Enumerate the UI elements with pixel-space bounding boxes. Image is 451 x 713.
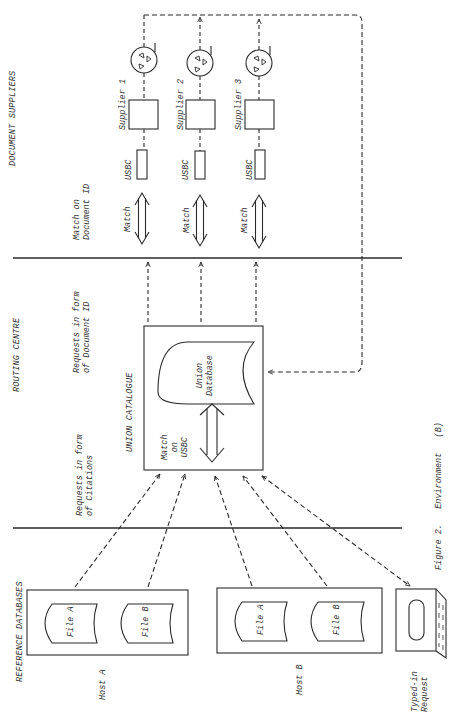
- host-a-graphic: [27, 590, 188, 655]
- section-label-document-suppliers: DOCUMENT SUPPLIERS: [8, 71, 18, 166]
- terminal-label: Typed-in Request: [410, 671, 430, 712]
- host-b-file-a-label: File A: [256, 604, 266, 635]
- union-catalogue-title: UNION CATALOGUE: [125, 372, 135, 452]
- supplier-3-match-label: Match: [240, 207, 250, 233]
- supplier-3-label: Supplier 3: [234, 79, 244, 130]
- supplier-3-usbc-label: USBC: [245, 160, 255, 180]
- feedback-loop-line: [144, 15, 362, 372]
- union-match-on-usbc-label: Match on USBC: [160, 434, 190, 460]
- supplier-2-label: Supplier 2: [176, 79, 186, 130]
- supplier-2-usbc-label: USBC: [181, 160, 191, 180]
- caption-text: Figure 2. Environment (B): [434, 422, 444, 570]
- host-a-label: Host A: [98, 669, 108, 700]
- label-line: Match on: [72, 184, 82, 240]
- label-line: Database: [205, 355, 215, 396]
- host-a-file-a-label: File A: [66, 606, 76, 637]
- section-label-routing-centre: ROUTING CENTRE: [12, 318, 22, 392]
- supplier-1-match-label: Match: [123, 206, 133, 232]
- label-line: of Citations: [85, 434, 95, 516]
- label-line: on: [170, 434, 180, 460]
- label-line: of Document ID: [82, 291, 92, 373]
- supplier-1-usbc-label: USBC: [124, 160, 134, 180]
- union-database-label: Union Database: [195, 355, 215, 396]
- host-b-file-b-label: File B: [332, 604, 342, 635]
- label-requests-document-id: Requests in form of Document ID: [72, 291, 92, 373]
- host-a-file-b-label: File B: [141, 606, 151, 637]
- section-label-reference-databases: REFERENCE DATABASES: [15, 581, 25, 682]
- supplier-1-graphic: [129, 15, 158, 244]
- label-requests-citations: Requests in form of Citations: [75, 434, 95, 516]
- label-line: USBC: [180, 434, 190, 460]
- label-line: Typed-in: [410, 671, 420, 712]
- label-line: Match: [160, 434, 170, 460]
- label-line: Requests in form: [72, 291, 82, 373]
- host-b-label: Host B: [295, 664, 305, 695]
- supplier-2-match-label: Match: [182, 207, 192, 233]
- label-line: Requests in form: [75, 434, 85, 516]
- supplier-1-label: Supplier 1: [118, 79, 128, 130]
- label-line: Document ID: [82, 184, 92, 240]
- host-b-graphic: [217, 588, 382, 653]
- label-match-on-document-id: Match on Document ID: [72, 184, 92, 240]
- terminal-graphic: [396, 589, 446, 658]
- label-line: Request: [420, 671, 430, 712]
- label-line: Union: [195, 355, 205, 396]
- figure-caption: Figure 2. Environment (B): [434, 422, 444, 570]
